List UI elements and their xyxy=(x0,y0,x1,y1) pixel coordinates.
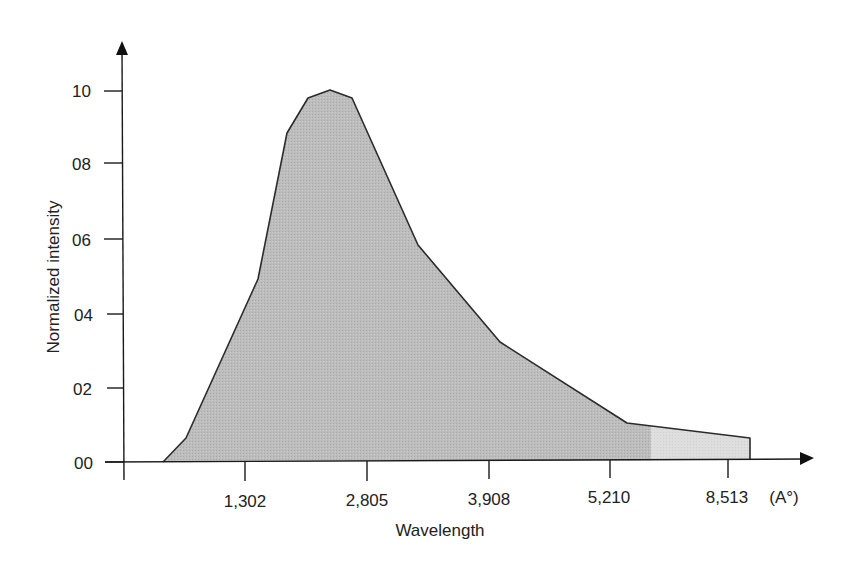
y-tick-label: 08 xyxy=(72,155,91,174)
y-tick-label: 06 xyxy=(72,231,91,250)
x-tick-label: 2,805 xyxy=(346,491,389,510)
x-tick-label: 3,908 xyxy=(468,490,511,509)
x-axis-arrow-icon xyxy=(800,452,814,465)
y-tick-labels: 10 08 06 04 02 00 xyxy=(72,82,93,473)
x-tick-label: 5,210 xyxy=(588,488,631,507)
y-axis-title: Normalized intensity xyxy=(44,200,63,354)
y-axis-arrow-icon xyxy=(116,41,128,55)
y-axis xyxy=(104,41,128,480)
y-tick-label: 00 xyxy=(74,454,93,473)
x-tick-label: 8,513 xyxy=(706,488,749,507)
spectrum-chart: 10 08 06 04 02 00 Normalized intensity 1… xyxy=(0,0,852,568)
y-tick-label: 10 xyxy=(72,82,91,101)
spectrum-area xyxy=(150,80,761,470)
y-tick-label: 04 xyxy=(74,306,93,325)
x-axis-title: Wavelength xyxy=(395,521,484,540)
x-unit-label: (A°) xyxy=(769,488,798,507)
x-tick-labels: 1,302 2,805 3,908 5,210 8,513 (A°) xyxy=(224,488,799,511)
tail-region xyxy=(651,80,761,470)
x-tick-label: 1,302 xyxy=(224,492,267,511)
y-tick-label: 02 xyxy=(73,380,92,399)
